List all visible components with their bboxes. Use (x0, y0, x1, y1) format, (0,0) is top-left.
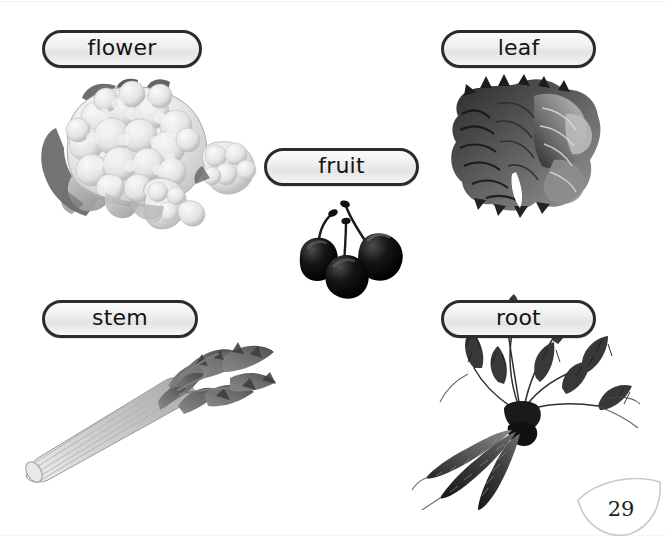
label-pill-flower[interactable]: flower (42, 30, 202, 68)
label-text-stem: stem (92, 307, 148, 331)
label-text-leaf: leaf (498, 37, 540, 61)
label-pill-root[interactable]: root (441, 300, 596, 338)
label-pill-fruit[interactable]: fruit (264, 148, 419, 186)
cauliflower-illustration (20, 70, 268, 245)
page-number-text: 29 (576, 478, 662, 536)
label-text-root: root (496, 307, 541, 331)
lettuce-leaf-illustration (438, 74, 610, 222)
textbook-page: flower leaf fruit stem root 29 (0, 0, 666, 536)
label-pill-stem[interactable]: stem (42, 300, 198, 338)
cherries-illustration (288, 190, 414, 300)
celery-stalk-illustration (18, 328, 280, 483)
label-text-flower: flower (87, 37, 156, 61)
label-text-fruit: fruit (318, 155, 364, 179)
page-number-badge: 29 (576, 478, 662, 536)
label-pill-leaf[interactable]: leaf (441, 30, 596, 68)
page-edge-top (0, 1, 666, 2)
